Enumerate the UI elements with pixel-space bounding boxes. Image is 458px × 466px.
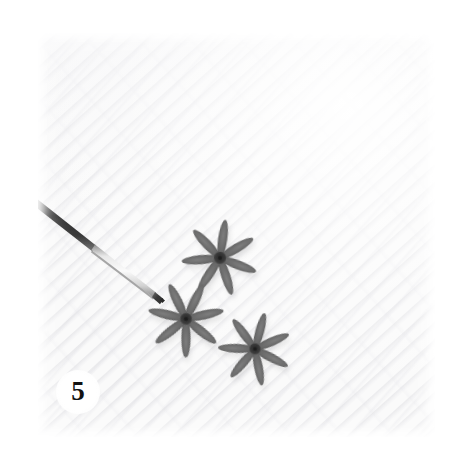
probe-handle [38,197,96,252]
figure-panel: 5 [0,0,458,466]
probe-shaft-edge [91,250,154,299]
panel-number-text: 5 [71,378,85,405]
specimen-photograph [38,33,435,437]
probe-shaft [92,245,157,298]
star-flower-top [176,215,266,305]
panel-number-label: 5 [56,370,100,414]
dissecting-probe [38,197,168,310]
specimen-illustration-layer [38,33,435,437]
